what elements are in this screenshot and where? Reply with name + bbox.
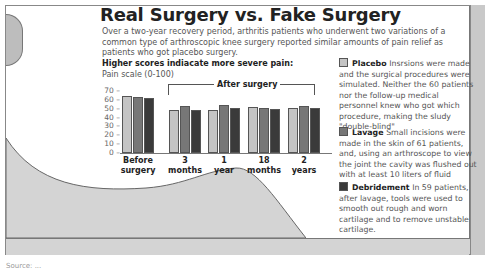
y-tick-label: 20 – [100,130,120,139]
y-tick-label: 50 – [100,104,120,113]
bar-placebo [248,107,258,153]
x-category-label: Beforesurgery [112,156,164,176]
legend-item-debridement: Debridement In 59 patients, after lavage… [339,182,477,236]
bar-placebo [288,108,298,153]
page-title: Real Surgery vs. Fake Surgery [100,4,401,25]
after-surgery-label: After surgery [214,80,280,89]
y-tick-label: 10 – [100,139,120,148]
chart-subheading: Pain scale (0-100) [102,70,174,79]
bar-debridement [191,110,201,153]
bar-debridement [270,109,280,153]
y-tick-label: 30 – [100,121,120,130]
x-category-label: 2years [278,156,330,176]
legend-swatch-icon [339,127,348,136]
legend-swatch-icon [339,182,348,191]
bar-placebo [169,110,179,153]
legend-item-lavage: Lavage Small incisions were made in the … [339,127,477,181]
chart-heading: Higher scores indiacate more severe pain… [102,59,293,68]
after-surgery-bracket-left [168,84,215,95]
bar-lavage [219,105,229,153]
y-tick-label: 70 – [100,86,120,95]
bottom-strip [6,238,469,255]
bar-placebo [208,110,218,153]
bar-lavage [299,106,309,153]
source-text: Source: ... [6,262,41,270]
y-tick-label: 40 – [100,113,120,122]
bar-placebo [122,96,132,153]
x-axis-baseline [120,153,332,154]
bar-debridement [310,108,320,153]
bar-lavage [180,106,190,153]
bar-lavage [133,97,143,153]
legend-name: Placebo [352,59,389,68]
legend-name: Debridement [352,183,412,192]
legend-swatch-icon [339,58,348,67]
legend-description: Insrsions were made and the surgical pro… [339,59,473,131]
y-tick-label: 60 – [100,95,120,104]
legend-item-placebo: Placebo Insrsions were made and the surg… [339,58,477,133]
intro-text: Over a two-year recovery period, arthrit… [102,27,462,59]
bar-debridement [230,108,240,153]
bar-debridement [144,98,154,153]
legend-name: Lavage [352,128,386,137]
bar-lavage [259,108,269,153]
